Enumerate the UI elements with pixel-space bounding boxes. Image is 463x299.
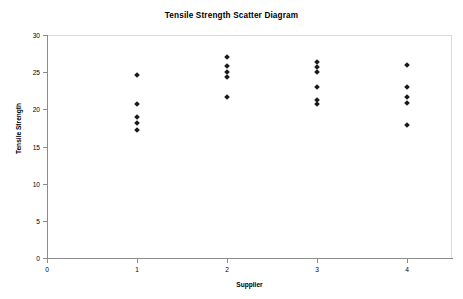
y-axis-title: Tensile Strength	[15, 84, 22, 174]
y-axis-tick-label: 30	[0, 32, 40, 39]
x-axis-title: Supplier	[47, 281, 452, 288]
plot-area	[47, 35, 452, 258]
y-axis-tick-label: 5	[0, 217, 40, 224]
x-axis-tick-label: 3	[302, 266, 332, 273]
y-axis-tick	[43, 221, 47, 222]
y-axis-tick-label: 0	[0, 255, 40, 262]
x-axis-tick-label: 0	[32, 266, 62, 273]
x-axis-tick	[227, 259, 228, 263]
y-axis-tick-label: 25	[0, 69, 40, 76]
x-axis-tick-label: 1	[122, 266, 152, 273]
scatter-chart: Tensile Strength Scatter Diagram 0510152…	[0, 0, 463, 299]
x-axis-line	[47, 258, 453, 259]
y-axis-tick	[43, 184, 47, 185]
x-axis-tick-label: 2	[212, 266, 242, 273]
y-axis-line	[47, 35, 48, 259]
x-axis-tick	[407, 259, 408, 263]
y-axis-tick	[43, 147, 47, 148]
chart-title: Tensile Strength Scatter Diagram	[0, 11, 463, 20]
x-axis-tick-label: 4	[392, 266, 422, 273]
x-axis-tick	[137, 259, 138, 263]
y-axis-tick	[43, 109, 47, 110]
x-axis-tick	[47, 259, 48, 263]
y-axis-tick-label: 10	[0, 180, 40, 187]
y-axis-tick	[43, 72, 47, 73]
y-axis-tick	[43, 35, 47, 36]
x-axis-tick	[317, 259, 318, 263]
